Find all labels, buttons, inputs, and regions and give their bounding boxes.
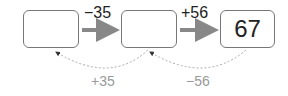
inverse-op-2: −56: [186, 73, 210, 89]
box-start: [23, 10, 79, 48]
box-middle: [121, 10, 177, 48]
inverse-arrow-2: [150, 50, 246, 68]
forward-op-1: −35: [84, 4, 111, 22]
inverse-arrow-1: [56, 50, 148, 68]
forward-op-2: +56: [181, 4, 208, 22]
inverse-op-1: +35: [91, 73, 115, 89]
box-result: 67: [220, 10, 275, 48]
